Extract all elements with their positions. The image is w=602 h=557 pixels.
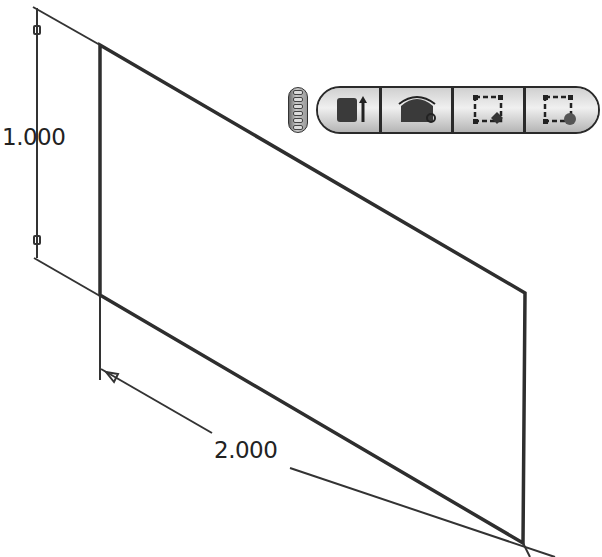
width-dimension-label[interactable]: 2.000	[214, 437, 277, 463]
sketch-edit-button[interactable]	[454, 88, 526, 132]
mini-toolbar	[288, 85, 600, 135]
sketch-edit-icon	[469, 92, 509, 128]
drawing-canvas	[0, 0, 602, 557]
extrude-icon	[333, 92, 373, 128]
extrude-button[interactable]	[318, 88, 382, 132]
sketch-point-icon	[539, 92, 579, 128]
toolbar-button-group	[316, 86, 600, 134]
revolve-button[interactable]	[382, 88, 454, 132]
sketch-point-button[interactable]	[526, 88, 598, 132]
height-dimension[interactable]	[33, 7, 100, 296]
grip-handle-icon[interactable]	[288, 87, 308, 133]
height-dimension-label[interactable]: 1.000	[2, 124, 65, 150]
revolve-icon	[395, 92, 439, 128]
arrow-left-icon	[106, 372, 118, 382]
